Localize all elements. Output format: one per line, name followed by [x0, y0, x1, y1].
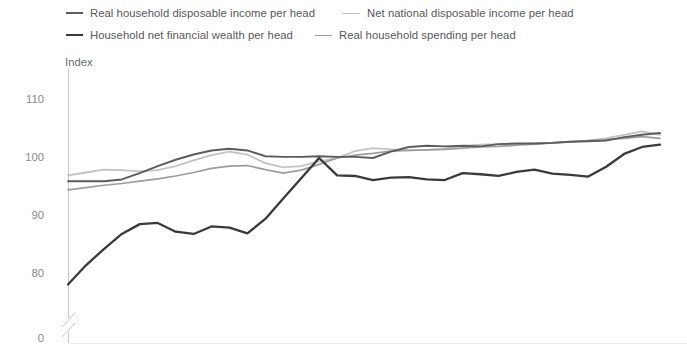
- plot-area: [0, 0, 687, 347]
- chart-root: Real household disposable income per hea…: [0, 0, 687, 347]
- series-line: [68, 131, 660, 175]
- series-line: [68, 137, 660, 190]
- line-chart-svg: [0, 0, 687, 347]
